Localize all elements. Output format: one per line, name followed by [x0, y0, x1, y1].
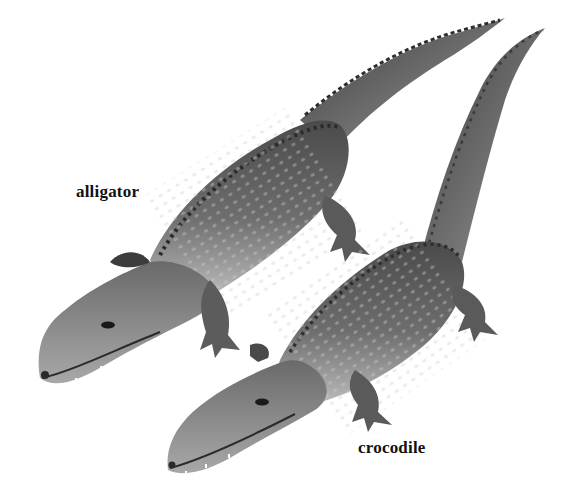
illustration: alligator crocodile [0, 0, 569, 497]
reptiles-illustration [0, 0, 569, 497]
crocodile-tail [420, 28, 545, 270]
alligator-eye [101, 322, 115, 329]
alligator-label: alligator [76, 182, 139, 202]
crocodile-head [168, 360, 327, 473]
crocodile-eye [255, 399, 269, 406]
alligator-head [39, 261, 215, 383]
crocodile-label: crocodile [358, 438, 426, 458]
